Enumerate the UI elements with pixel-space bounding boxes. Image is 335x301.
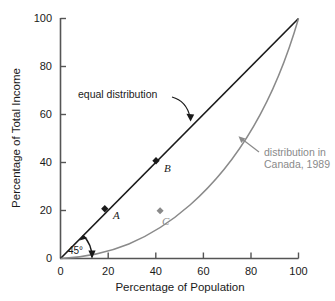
canada-leader-line: [242, 139, 259, 152]
x-tick-label-0: 0: [57, 265, 63, 277]
x-tick-label-40: 40: [150, 265, 162, 277]
x-axis-title: Percentage of Population: [115, 281, 244, 293]
y-tick-label-0: 0: [46, 252, 52, 264]
data-point-c-label: C: [162, 215, 170, 227]
y-tick-label-40: 40: [40, 156, 52, 168]
canada-label-line2: Canada, 1989: [264, 158, 330, 170]
data-point-c: [157, 207, 164, 214]
x-tick-label-80: 80: [245, 265, 257, 277]
x-tick-label-100: 100: [289, 265, 307, 277]
chart-canvas: 100 80 60 40 20 0 0 20 40 60 80 100 Perc…: [0, 0, 335, 301]
data-point-b: [152, 157, 159, 164]
x-tick-label-20: 20: [102, 265, 114, 277]
y-axis-title: Percentage of Total Income: [10, 68, 22, 208]
y-tick-label-20: 20: [40, 204, 52, 216]
equal-distribution-arrowhead: [186, 114, 194, 122]
x-tick-label-60: 60: [197, 265, 209, 277]
lorenz-curve-chart: 100 80 60 40 20 0 0 20 40 60 80 100 Perc…: [0, 0, 335, 301]
data-point-a-label: A: [112, 209, 120, 221]
y-tick-label-80: 80: [40, 60, 52, 72]
y-tick-label-100: 100: [34, 12, 52, 24]
data-point-b-label: B: [164, 162, 171, 174]
x-axis-ticks: [108, 253, 298, 259]
y-tick-label-60: 60: [40, 108, 52, 120]
equal-distribution-line: [61, 19, 299, 259]
equal-distribution-label: equal distribution: [78, 88, 158, 100]
y-axis-ticks: [61, 19, 67, 211]
angle-label: 45°: [68, 245, 83, 256]
canada-label-line1: distribution in: [264, 146, 326, 158]
